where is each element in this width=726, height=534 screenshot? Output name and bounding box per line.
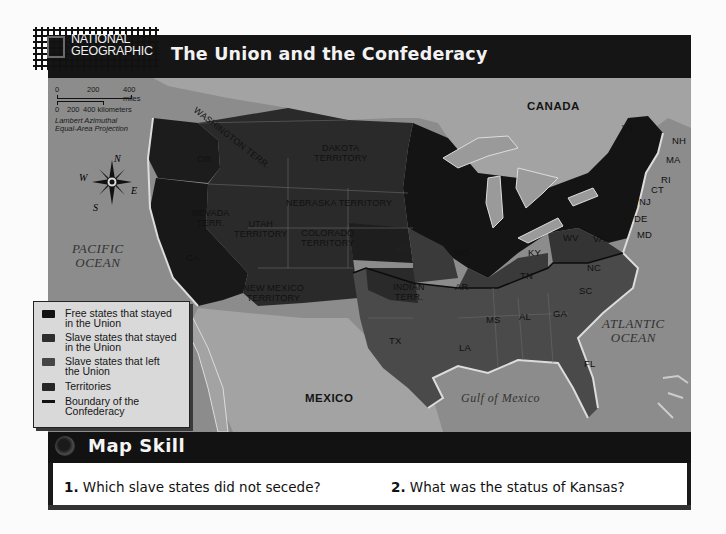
slave-left-swatch — [42, 358, 55, 366]
national-geographic-logo-text: NATIONAL GEOGRAPHIC — [71, 33, 153, 57]
label-nebraska-territory: NEBRASKA TERRITORY — [286, 198, 392, 208]
label-or: OR — [197, 153, 212, 164]
label-md: MD — [637, 229, 652, 240]
label-la: LA — [459, 342, 471, 353]
label-ct: CT — [651, 184, 664, 195]
scale-kilometers: 0 200 400 kilometers — [55, 105, 132, 115]
label-al: AL — [519, 311, 531, 322]
label-dakota-territory: DAKOTA TERRITORY — [314, 143, 367, 163]
legend-item-slave-left: Slave states that leftthe Union — [42, 356, 160, 376]
label-vt: VT — [622, 122, 635, 133]
map-skill-circle-icon — [55, 436, 75, 456]
label-tx: TX — [389, 335, 402, 346]
label-sc: SC — [579, 285, 593, 296]
label-ga: GA — [553, 308, 567, 319]
label-pacific-ocean: PACIFIC OCEAN — [72, 242, 124, 270]
scale-miles: 0 200 400 miles — [55, 85, 132, 95]
compass-rose-icon: N W E S — [87, 155, 137, 210]
label-ks: KS — [397, 243, 410, 254]
free-states-swatch — [42, 310, 55, 318]
label-gulf-of-mexico: Gulf of Mexico — [461, 391, 540, 405]
label-fl: FL — [584, 358, 596, 369]
label-atlantic-ocean: ATLANTIC OCEAN — [602, 317, 665, 345]
legend-item-free-states: Free states that stayedin the Union — [42, 308, 172, 328]
label-ms: MS — [486, 314, 501, 325]
label-indian-territory: INDIAN TERR. — [393, 282, 425, 302]
label-ma: MA — [666, 154, 681, 165]
map-skill-title: Map Skill — [88, 435, 185, 456]
legend-item-boundary: Boundary of theConfederacy — [42, 396, 139, 416]
slave-union-swatch — [42, 334, 55, 342]
label-new-mexico-territory: NEW MEXICO TERRITORY — [243, 283, 304, 303]
label-canada: CANADA — [527, 100, 580, 112]
logo-line-2: GEOGRAPHIC — [71, 45, 153, 57]
national-geographic-rectangle-icon — [47, 36, 65, 58]
label-mexico: MEXICO — [305, 392, 353, 404]
question-2: 2. What was the status of Kansas? — [391, 479, 625, 495]
map-legend: Free states that stayedin the Union Slav… — [33, 301, 190, 428]
frame-bottom-edge — [48, 505, 691, 510]
label-ky: KY — [528, 247, 541, 258]
legend-item-territories: Territories — [42, 381, 111, 391]
projection-label: Lambert Azimuthal Equal-Area Projection — [55, 117, 132, 133]
legend-item-slave-union: Slave states that stayedin the Union — [42, 332, 176, 352]
caribbean-islands — [658, 376, 688, 418]
label-utah-territory: UTAH TERRITORY — [234, 219, 287, 239]
label-mo: MO — [453, 247, 469, 258]
boundary-line-swatch — [42, 400, 55, 403]
territories-swatch — [42, 383, 55, 391]
label-ca: CA — [186, 252, 200, 263]
scale-bar: 0 200 400 miles 0 200 400 kilometers Lam… — [55, 85, 132, 133]
question-1: 1. Which slave states did not secede? — [64, 479, 321, 495]
label-ri: RI — [661, 174, 671, 185]
label-colorado-territory: COLORADO TERRITORY — [301, 228, 354, 248]
map-title: The Union and the Confederacy — [171, 44, 488, 64]
label-nj: NJ — [639, 196, 651, 207]
scale-line-miles — [57, 95, 132, 99]
label-nc: NC — [587, 262, 601, 273]
label-va: VA — [593, 233, 605, 244]
label-de: DE — [634, 213, 648, 224]
label-wv: WV — [563, 232, 579, 243]
label-nh: NH — [672, 135, 686, 146]
label-tn: TN — [520, 270, 533, 281]
label-ar: AR — [455, 281, 469, 292]
label-nevada-territory: NEVADA TERR. — [192, 208, 230, 228]
